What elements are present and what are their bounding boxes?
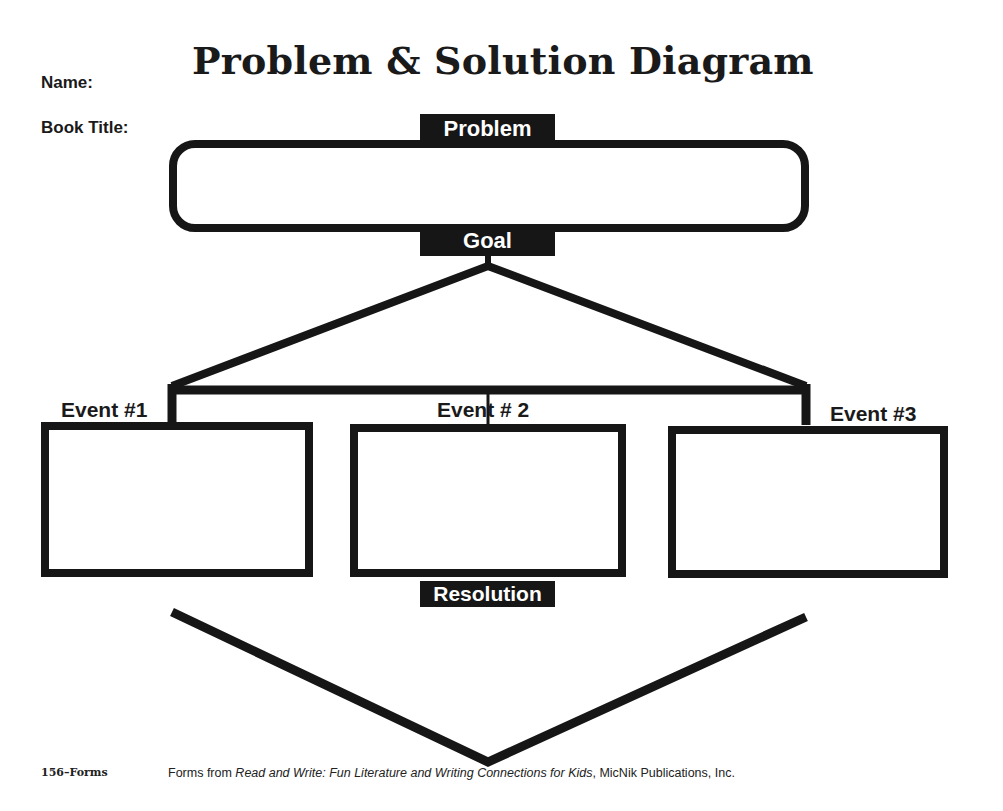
event-3-input-area[interactable] — [676, 434, 940, 570]
page-number: 156–Forms — [41, 766, 108, 779]
problem-input-area[interactable] — [181, 152, 797, 220]
credit-book-title: Read and Write: Fun Literature and Writi… — [235, 766, 592, 780]
goal-tag: Goal — [420, 226, 555, 256]
resolution-input-area[interactable] — [300, 630, 680, 730]
footer-credit: Forms from Read and Write: Fun Literatur… — [168, 766, 735, 780]
event-2-input-area[interactable] — [358, 432, 618, 569]
resolution-tag: Resolution — [420, 581, 555, 607]
credit-suffix: , MicNik Publications, Inc. — [592, 766, 734, 780]
event-3-label: Event #3 — [830, 402, 916, 426]
goal-connector-lines — [172, 266, 806, 386]
event-1-input-area[interactable] — [49, 430, 305, 569]
credit-prefix: Forms from — [168, 766, 235, 780]
event-2-label: Event # 2 — [437, 398, 529, 422]
problem-tag: Problem — [420, 114, 555, 144]
event-1-label: Event #1 — [61, 398, 147, 422]
